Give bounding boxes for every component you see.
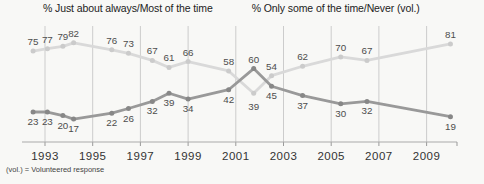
data-point (60, 113, 65, 118)
data-point-label: 37 (297, 100, 308, 111)
x-tick-label: 1997 (127, 150, 155, 162)
data-point-label: 73 (123, 38, 134, 49)
data-point (71, 117, 76, 122)
data-point (300, 64, 305, 69)
data-point-label: 23 (28, 116, 39, 127)
data-point (448, 114, 453, 119)
data-point (150, 99, 155, 104)
data-point-label: 67 (362, 45, 373, 56)
data-point-label: 60 (248, 54, 259, 65)
data-point (269, 84, 274, 89)
data-point (109, 111, 114, 116)
data-point-label: 17 (68, 123, 79, 134)
data-point-label: 58 (223, 56, 234, 67)
data-point-label: 19 (445, 121, 456, 132)
x-tick-label: 1999 (174, 150, 202, 162)
data-point (251, 66, 256, 71)
data-point (126, 51, 131, 56)
data-point (45, 46, 50, 51)
data-point-label: 62 (297, 51, 308, 62)
data-point (31, 49, 36, 54)
data-point-label: 32 (147, 105, 158, 116)
data-point (251, 91, 256, 96)
data-point (269, 73, 274, 78)
x-tick-label: 1995 (79, 150, 107, 162)
data-point-label: 70 (335, 42, 346, 53)
data-point-label: 22 (106, 117, 117, 128)
data-point-label: 61 (164, 52, 175, 63)
data-point (167, 65, 172, 70)
data-point (150, 58, 155, 63)
data-point (338, 54, 343, 59)
data-point (60, 44, 65, 49)
data-point-label: 26 (123, 113, 134, 124)
data-point-label: 75 (28, 36, 39, 47)
data-point (31, 110, 36, 115)
data-point (364, 99, 369, 104)
data-point-label: 79 (57, 31, 68, 42)
data-point-label: 67 (147, 45, 158, 56)
data-point (109, 47, 114, 52)
data-point-label: 82 (68, 28, 79, 39)
data-point-label: 76 (106, 35, 117, 46)
data-point (126, 106, 131, 111)
data-point (167, 91, 172, 96)
data-point-label: 32 (362, 105, 373, 116)
data-point (338, 101, 343, 106)
footnote: (vol.) = Volunteered response (6, 165, 104, 174)
series-line-always-most (33, 69, 450, 119)
data-point (186, 59, 191, 64)
x-tick-label: 2001 (222, 150, 250, 162)
data-point-label: 54 (266, 61, 277, 72)
data-point (186, 97, 191, 102)
data-point-label: 39 (248, 101, 259, 112)
data-point-label: 77 (42, 34, 53, 45)
x-tick-label: 2005 (317, 150, 345, 162)
data-point-label: 66 (183, 47, 194, 58)
line-plot: 1993199519971999200120032005200720097577… (0, 0, 484, 184)
data-point-label: 30 (335, 108, 346, 119)
data-point (364, 58, 369, 63)
x-tick-label: 2009 (413, 150, 441, 162)
series-line-some-never (33, 43, 450, 93)
data-point-label: 39 (164, 97, 175, 108)
data-point (226, 68, 231, 73)
trust-line-chart: % Just about always/Most of the time % O… (0, 0, 484, 184)
data-point (300, 93, 305, 98)
data-point (71, 40, 76, 45)
data-point (45, 110, 50, 115)
x-tick-label: 1993 (31, 150, 59, 162)
data-point-label: 34 (183, 103, 194, 114)
data-point-label: 81 (445, 29, 456, 40)
data-point-label: 45 (266, 90, 277, 101)
data-point-label: 23 (42, 116, 53, 127)
data-point-label: 20 (57, 120, 68, 131)
x-tick-label: 2003 (270, 150, 298, 162)
x-tick-label: 2007 (365, 150, 393, 162)
data-point (226, 87, 231, 92)
data-point-label: 42 (223, 94, 234, 105)
data-point (448, 41, 453, 46)
